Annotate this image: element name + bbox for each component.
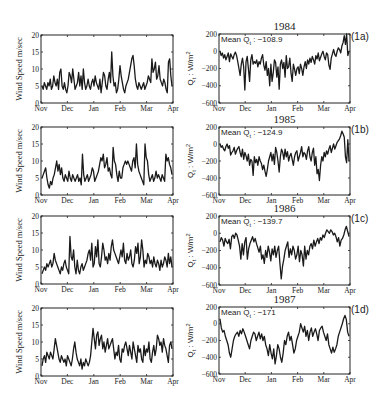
- x-tick-label: Jan: [89, 285, 99, 294]
- y-tick-label: −600: [202, 191, 218, 200]
- panel-tag: (1d): [351, 304, 369, 315]
- panel-title: 1985: [274, 113, 297, 125]
- x-tick-label: Mar: [140, 285, 153, 294]
- y-tick-label: 0: [35, 280, 39, 289]
- data-series-line: [220, 315, 349, 364]
- y-tick-label: 10: [32, 338, 40, 347]
- y-axis-label: Wind Speed m/sec: [14, 129, 24, 193]
- y-tick-label: 5: [35, 355, 39, 364]
- x-tick-label: Dec: [61, 196, 74, 205]
- data-series-line: [42, 144, 172, 188]
- panel-1c-right: NovDecJanFebMarApr2000−200−400−600Qt : W…: [185, 202, 368, 295]
- x-tick-label: Mar: [140, 196, 153, 205]
- y-tick-label: −400: [202, 174, 218, 183]
- mean-annotation: Mean Qt : −124.9: [221, 128, 283, 139]
- x-tick-label: Apr: [167, 285, 179, 294]
- y-tick-label: −200: [202, 336, 218, 345]
- panel-1b-right: NovDecJanFebMarApr2000−200−400−600Qt : W…: [185, 113, 369, 205]
- x-tick-label: Feb: [292, 375, 304, 384]
- x-tick-label: Apr: [344, 375, 356, 384]
- x-tick-label: Dec: [61, 377, 74, 386]
- panel-title: 1987: [274, 293, 297, 305]
- figure-canvas: NovDecJanFebMarApr05101520Wind Speed m/s…: [0, 0, 392, 414]
- y-tick-label: 0: [213, 229, 217, 238]
- panel-tag: (1b): [351, 124, 369, 135]
- y-tick-label: 10: [32, 246, 40, 255]
- y-tick-label: 5: [35, 174, 39, 183]
- mean-annotation: Mean Qt : −139.7: [221, 217, 283, 228]
- x-tick-label: Apr: [167, 377, 179, 386]
- x-tick-label: Mar: [318, 196, 331, 205]
- axes-frame: [219, 127, 350, 195]
- y-tick-label: −400: [202, 263, 218, 272]
- panel-title: 1984: [274, 20, 297, 32]
- y-axis-label: Qt : W/m2: [185, 144, 197, 178]
- x-tick-label: Feb: [115, 196, 127, 205]
- y-tick-label: 0: [35, 372, 39, 381]
- x-tick-label: Jan: [89, 104, 99, 113]
- y-tick-label: 200: [206, 30, 218, 39]
- panel-1c-left: NovDecJanFebMarApr05101520Wind Speed m/s…: [14, 212, 179, 295]
- mean-annotation: Mean Qt : −108.9: [221, 35, 283, 46]
- x-tick-label: Jan: [266, 104, 276, 113]
- y-tick-label: 20: [32, 212, 40, 221]
- y-axis-label: Qt : W/m2: [185, 51, 197, 85]
- y-tick-label: 0: [213, 140, 217, 149]
- y-axis-label: Wind Speed m/sec: [14, 310, 24, 374]
- x-tick-label: Jan: [266, 375, 276, 384]
- x-tick-label: Dec: [239, 375, 252, 384]
- y-tick-label: 200: [206, 212, 218, 221]
- x-tick-label: Dec: [61, 285, 74, 294]
- y-tick-label: −600: [202, 99, 218, 108]
- panel-1d-right: NovDecJanFebMarApr2000−200−400−600Qt : W…: [185, 293, 369, 384]
- panel-1d-left: NovDecJanFebMarApr05101520Wind Speed m/s…: [14, 304, 179, 387]
- x-tick-label: Apr: [344, 196, 356, 205]
- y-tick-label: −600: [202, 281, 218, 290]
- x-tick-label: Mar: [318, 104, 331, 113]
- y-axis-label: Qt : W/m2: [185, 233, 197, 267]
- x-tick-label: Apr: [344, 104, 356, 113]
- y-axis-label: Wind Speed m/sec: [14, 218, 24, 282]
- panel-title: 1986: [274, 202, 297, 214]
- y-tick-label: 200: [206, 303, 218, 312]
- y-tick-label: −200: [202, 64, 218, 73]
- y-tick-label: 15: [32, 229, 40, 238]
- x-tick-label: Dec: [61, 104, 74, 113]
- x-tick-label: Apr: [167, 196, 179, 205]
- x-tick-label: Mar: [140, 377, 153, 386]
- data-series-line: [42, 236, 172, 273]
- y-tick-label: −200: [202, 246, 218, 255]
- panel-tag: (1a): [351, 31, 369, 42]
- data-series-line: [220, 226, 349, 279]
- y-tick-label: 20: [32, 123, 40, 132]
- y-tick-label: −200: [202, 157, 218, 166]
- x-tick-label: Dec: [239, 286, 252, 295]
- y-tick-label: 20: [32, 304, 40, 313]
- x-tick-label: Feb: [115, 285, 127, 294]
- y-tick-label: 0: [35, 191, 39, 200]
- y-tick-label: 10: [32, 65, 40, 74]
- y-axis-label: Qt : W/m2: [185, 323, 197, 357]
- data-series-line: [42, 52, 172, 93]
- panel-1b-left: NovDecJanFebMarApr05101520Wind Speed m/s…: [14, 123, 179, 206]
- panel-1a-left: NovDecJanFebMarApr05101520Wind Speed m/s…: [14, 31, 179, 114]
- y-tick-label: 0: [35, 99, 39, 108]
- x-tick-label: Apr: [344, 286, 356, 295]
- y-tick-label: 200: [206, 123, 218, 132]
- x-tick-label: Apr: [167, 104, 179, 113]
- x-tick-label: Jan: [89, 377, 99, 386]
- y-tick-label: 15: [32, 48, 40, 57]
- x-tick-label: Dec: [239, 196, 252, 205]
- panel-1a-right: NovDecJanFebMarApr2000−200−400−600Qt : W…: [185, 20, 369, 113]
- data-series-line: [42, 328, 172, 369]
- x-tick-label: Feb: [292, 104, 304, 113]
- panel-tag: (1c): [351, 213, 368, 224]
- x-tick-label: Dec: [239, 104, 252, 113]
- y-axis-label: Wind Speed m/sec: [14, 37, 24, 101]
- y-tick-label: 5: [35, 82, 39, 91]
- x-tick-label: Mar: [318, 286, 331, 295]
- mean-annotation: Mean Qt : −171: [221, 308, 276, 319]
- data-series-line: [220, 131, 349, 180]
- x-tick-label: Jan: [89, 196, 99, 205]
- y-tick-label: 10: [32, 157, 40, 166]
